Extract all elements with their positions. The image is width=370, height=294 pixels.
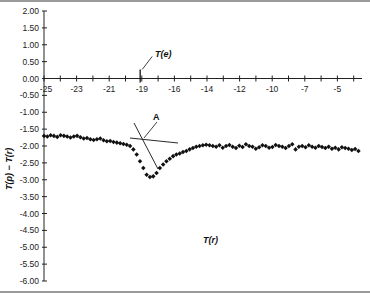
- y-axis-title: T(p) − T(r): [4, 148, 14, 190]
- data-point: [148, 175, 153, 180]
- data-point: [115, 140, 120, 145]
- data-point: [158, 166, 163, 171]
- y-tick-label: 1.50: [22, 23, 39, 33]
- y-tick-label: -1.50: [20, 124, 40, 134]
- data-point: [154, 171, 159, 176]
- data-point: [207, 143, 212, 148]
- data-point: [91, 138, 96, 143]
- x-tick-label: -10: [266, 84, 279, 94]
- data-point: [277, 144, 282, 149]
- data-point: [68, 135, 73, 140]
- data-point: [62, 134, 67, 139]
- data-point: [293, 147, 298, 152]
- y-tick-label: -5.50: [20, 259, 40, 269]
- data-point: [320, 145, 325, 150]
- y-tick-label: -5.00: [20, 242, 40, 252]
- x-axis-title: T(r): [203, 235, 218, 245]
- data-point: [134, 152, 139, 157]
- y-tick-label: 2.00: [22, 6, 39, 16]
- y-tick-label: -0.50: [20, 90, 40, 100]
- te-annotation-label: T(e): [155, 49, 172, 59]
- annotations: [140, 57, 157, 139]
- data-point: [121, 142, 126, 147]
- x-tick-label: -19: [136, 84, 149, 94]
- x-axis: -25-23-21-19-16-14-12-10-7-5: [40, 76, 362, 94]
- y-tick-label: -1.00: [20, 107, 40, 117]
- a-leader-line: [144, 122, 157, 138]
- data-point: [201, 143, 206, 148]
- x-tick-label: -21: [103, 84, 116, 94]
- data-point: [131, 147, 136, 152]
- y-tick-label: 0.00: [22, 74, 39, 84]
- x-tick-label: -23: [70, 84, 83, 94]
- tangent-lines: [130, 123, 178, 169]
- data-point: [65, 134, 70, 139]
- data-point: [95, 137, 100, 142]
- data-point: [141, 166, 146, 171]
- data-point: [144, 172, 149, 177]
- x-tick-label: -14: [201, 84, 214, 94]
- data-point: [151, 174, 156, 179]
- data-point: [168, 157, 173, 162]
- x-tick-label: -7: [301, 84, 309, 94]
- y-tick-label: -2.00: [20, 141, 40, 151]
- te-leader-line: [142, 57, 152, 70]
- x-tick-label: -12: [233, 84, 246, 94]
- data-point: [297, 144, 302, 149]
- data-point: [42, 134, 47, 139]
- data-point: [52, 134, 57, 139]
- data-point: [118, 141, 123, 146]
- data-point: [72, 134, 77, 139]
- data-point: [111, 140, 116, 145]
- y-tick-label: -4.50: [20, 225, 40, 235]
- data-point: [343, 146, 348, 151]
- data-point: [204, 142, 209, 147]
- x-tick-label: -16: [168, 84, 181, 94]
- y-tick-label: -3.00: [20, 175, 40, 185]
- x-tick-label: -25: [40, 84, 53, 94]
- data-point: [197, 144, 202, 149]
- x-tick-label: -5: [334, 84, 342, 94]
- scatter-chart: 2.001.501.000.500.00-0.50-1.00-1.50-2.00…: [0, 0, 370, 294]
- y-tick-label: -6.00: [20, 276, 40, 286]
- y-tick-label: 0.50: [22, 57, 39, 67]
- y-tick-label: -2.50: [20, 158, 40, 168]
- data-point: [161, 162, 166, 167]
- y-tick-label: 1.00: [22, 40, 39, 50]
- data-point: [138, 159, 143, 164]
- baseline-tangent: [130, 138, 178, 143]
- data-point: [164, 159, 169, 164]
- y-tick-label: -3.50: [20, 192, 40, 202]
- slope-tangent: [134, 123, 158, 169]
- data-point: [211, 144, 216, 149]
- y-tick-label: -4.00: [20, 209, 40, 219]
- y-axis: 2.001.501.000.500.00-0.50-1.00-1.50-2.00…: [20, 6, 47, 286]
- a-annotation-label: A: [153, 112, 160, 122]
- data-point: [108, 139, 113, 144]
- data-points: [42, 133, 361, 179]
